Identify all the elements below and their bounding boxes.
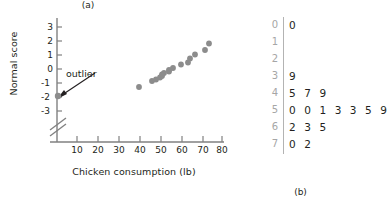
y-tick-label: 1	[39, 50, 53, 60]
stem-value: 6	[264, 121, 283, 132]
stem-leaf-row: 1	[264, 33, 390, 50]
panel-b-caption: (b)	[236, 187, 365, 197]
stem-value: 0	[264, 19, 283, 30]
stem-value: 4	[264, 87, 283, 98]
leaf-values: 0	[283, 19, 298, 31]
stem-value: 5	[264, 104, 283, 115]
data-point	[187, 56, 193, 62]
outlier-annotation-label: outlier	[66, 68, 97, 79]
x-tick-label: 70	[195, 145, 211, 155]
y-tick-label: 2	[39, 36, 53, 46]
leaf-values: 0 2	[283, 138, 314, 150]
stem-leaf-row: 5 0 0 1 3 3 5 9	[264, 101, 390, 118]
stem-leaf-row: 7 0 2	[264, 135, 390, 152]
leaf-values: 0 0 1 3 3 5 9	[283, 104, 390, 116]
y-axis-title: Normal score	[8, 25, 19, 103]
scatter-plot-svg	[0, 0, 232, 210]
stem-value: 1	[264, 36, 283, 47]
stem-leaf-table: 0 0 1 2 3 9 4 5 7 9 5 0 0 1 3 3 5 9	[264, 16, 390, 152]
data-point	[178, 62, 184, 68]
leaf-values: 9	[283, 70, 298, 82]
y-axis-break-marks	[50, 118, 66, 136]
stem-leaf-row: 0 0	[264, 16, 390, 33]
data-point	[170, 65, 176, 71]
leaf-values: 5 7 9	[283, 87, 329, 99]
data-point	[192, 52, 198, 58]
data-point-outlier	[55, 93, 61, 99]
y-tick-label: 0	[39, 64, 53, 74]
y-tick-label: -1	[36, 78, 50, 88]
stem-leaf-row: 4 5 7 9	[264, 84, 390, 101]
x-tick-label: 50	[153, 145, 169, 155]
x-tick-label: 20	[90, 145, 106, 155]
y-tick-label: 3	[39, 22, 53, 32]
stem-value: 2	[264, 53, 283, 64]
data-point	[136, 84, 142, 90]
data-point	[161, 70, 167, 76]
x-tick-label: 10	[69, 145, 85, 155]
data-point	[202, 47, 208, 53]
x-tick-label: 40	[132, 145, 148, 155]
stem-leaf-row: 2	[264, 50, 390, 67]
normal-probability-plot-panel: 3 2 1 0 -1 -2 -3 10 20 30 40 50 60 70 80…	[0, 0, 232, 210]
x-tick-label: 60	[174, 145, 190, 155]
leaf-values: 2 3 5	[283, 121, 329, 133]
y-tick-label: -2	[36, 92, 50, 102]
data-point	[206, 41, 212, 47]
stem-value: 7	[264, 138, 283, 149]
stem-and-leaf-panel: 0 0 1 2 3 9 4 5 7 9 5 0 0 1 3 3 5 9	[236, 0, 365, 210]
x-axis-ticks	[77, 136, 222, 142]
stem-leaf-row: 6 2 3 5	[264, 118, 390, 135]
stem-value: 3	[264, 70, 283, 81]
x-tick-label: 30	[111, 145, 127, 155]
y-tick-label: -3	[36, 106, 50, 116]
x-axis-title: Chicken consumption (lb)	[46, 166, 222, 177]
x-tick-label: 80	[214, 145, 230, 155]
stem-leaf-row: 3 9	[264, 67, 390, 84]
